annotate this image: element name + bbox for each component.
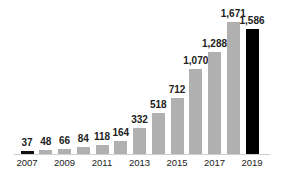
- x-tick-2013: 2013: [120, 157, 160, 168]
- bar-2010: [77, 147, 90, 154]
- bar-2015: [171, 98, 184, 154]
- bar-2014: [152, 113, 165, 154]
- bar-2018: [227, 22, 240, 154]
- bar-2017: [208, 52, 221, 154]
- bar-2011: [96, 145, 109, 154]
- bar-2013: [133, 128, 146, 154]
- x-tick-2017: 2017: [195, 157, 235, 168]
- x-axis-line: [14, 154, 270, 155]
- x-tick-2007: 2007: [7, 157, 47, 168]
- bar-2009: [58, 149, 71, 154]
- value-label-2019: 1,586: [232, 15, 272, 26]
- x-tick-2019: 2019: [232, 157, 272, 168]
- x-tick-2011: 2011: [82, 157, 122, 168]
- bar-2019: [246, 29, 259, 154]
- x-tick-2015: 2015: [157, 157, 197, 168]
- bar-chart: 374866841181643325187121,0701,2881,6711,…: [0, 0, 283, 180]
- bar-2012: [114, 141, 127, 154]
- bar-2008: [39, 150, 52, 154]
- x-tick-2009: 2009: [45, 157, 85, 168]
- bar-2007: [21, 151, 34, 154]
- bar-2016: [189, 69, 202, 154]
